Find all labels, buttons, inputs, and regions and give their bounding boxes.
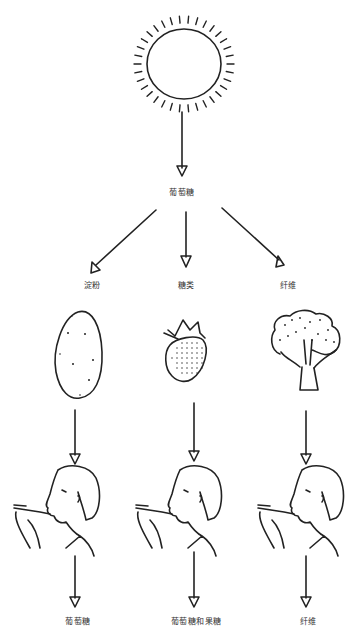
- broccoli-icon: [272, 310, 340, 390]
- root-label-glucose: 葡萄糖: [169, 186, 195, 197]
- label-starch: 淀粉: [84, 279, 101, 290]
- potato-icon: [55, 311, 102, 398]
- arrow-to-starch: [91, 210, 156, 273]
- arrow-to-result-1: [70, 556, 80, 607]
- arrow-to-fiber: [222, 208, 284, 267]
- person-eating-icon: [14, 466, 99, 556]
- diagram-canvas: [0, 0, 362, 637]
- sun-icon: [134, 16, 234, 112]
- arrow-potato-to-eater: [70, 410, 80, 464]
- label-fiber: 纤维: [280, 279, 297, 290]
- arrow-strawberry-to-eater: [189, 403, 199, 461]
- person-eating-icon: [258, 466, 343, 556]
- person-eating-icon: [136, 466, 221, 556]
- label-sugars: 糖类: [178, 279, 195, 290]
- result-label-3: 纤维: [300, 615, 317, 626]
- strawberry-icon: [164, 320, 206, 381]
- arrow-to-result-3: [301, 556, 311, 607]
- result-label-1: 葡萄糖: [65, 615, 91, 626]
- arrow-broccoli-to-eater: [301, 411, 311, 464]
- arrow-sun-to-glucose: [177, 112, 187, 176]
- arrow-to-sugars: [181, 212, 191, 267]
- arrow-to-result-2: [189, 552, 199, 607]
- result-label-2: 葡萄糖和果糖: [171, 615, 222, 626]
